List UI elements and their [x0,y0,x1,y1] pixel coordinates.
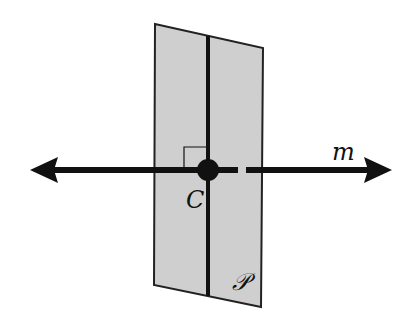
arrow-left-icon [30,157,58,183]
line-m-label: m [332,138,355,166]
point-c-label: C [186,186,204,214]
point-c [197,159,219,181]
arrow-right-icon [364,157,392,183]
perpendicular-line-plane-diagram: C m 𝒫 [0,0,405,331]
